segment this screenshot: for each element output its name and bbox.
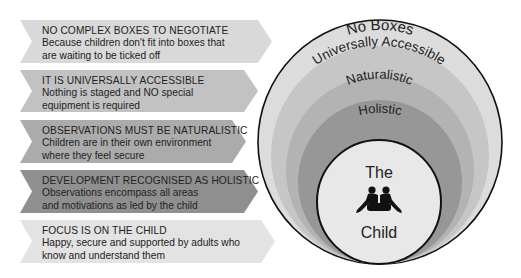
principle-desc-line2: and motivations as led by the child	[42, 200, 258, 213]
principle-arrow-universally-accessible: IT IS UNIVERSALLY ACCESSIBLE Nothing is …	[20, 70, 258, 113]
principle-desc-line2: know and understand them	[42, 250, 275, 263]
principle-title: DEVELOPMENT RECOGNISED AS HOLISTIC	[42, 174, 258, 187]
core-child-circle	[317, 140, 441, 264]
principle-desc-line2: where they feel secure	[42, 150, 246, 163]
principle-title: IT IS UNIVERSALLY ACCESSIBLE	[42, 74, 258, 87]
label-the: The	[365, 164, 393, 181]
principle-desc-line1: Nothing is staged and NO special	[42, 87, 258, 100]
principle-arrow-holistic: DEVELOPMENT RECOGNISED AS HOLISTIC Obser…	[20, 170, 258, 213]
principle-title: NO COMPLEX BOXES TO NEGOTIATE	[42, 24, 272, 37]
principle-desc-line1: Happy, secure and supported by adults wh…	[42, 237, 275, 250]
principle-desc-line1: Observations encompass all areas	[42, 187, 258, 200]
principle-arrow-focus-on-child: FOCUS IS ON THE CHILD Happy, secure and …	[20, 220, 275, 263]
label-holistic: Holistic	[357, 101, 404, 118]
principle-title: OBSERVATIONS MUST BE NATURALISTIC	[42, 124, 246, 137]
principle-arrow-no-boxes: NO COMPLEX BOXES TO NEGOTIATE Because ch…	[20, 20, 272, 63]
principle-arrow-naturalistic: OBSERVATIONS MUST BE NATURALISTIC Childr…	[20, 120, 246, 163]
svg-text:Holistic: Holistic	[357, 101, 404, 118]
principle-title: FOCUS IS ON THE CHILD	[42, 224, 275, 237]
principle-desc-line2: equipment is required	[42, 100, 258, 113]
principle-desc-line2: are waiting to be ticked off	[42, 50, 272, 63]
principle-desc-line1: Children are in their own environment	[42, 137, 246, 150]
label-child: Child	[361, 224, 397, 241]
principle-desc-line1: Because children don't fit into boxes th…	[42, 37, 272, 50]
